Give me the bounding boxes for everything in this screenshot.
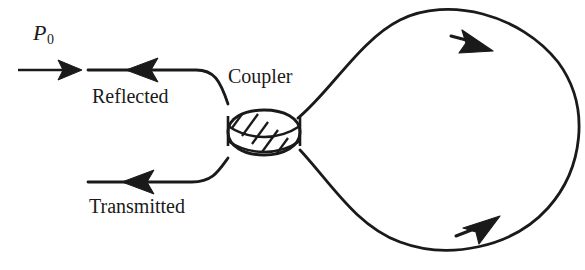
input-power-subscript: 0 (47, 32, 54, 47)
transmitted-fiber-line (88, 158, 228, 182)
input-power-symbol: P (33, 20, 46, 45)
loop-fiber-path (298, 9, 579, 250)
loop-bottom-arrowhead (463, 216, 500, 244)
input-power-label: P0 (33, 22, 54, 47)
loop-clockwise-arrow-bottom (456, 216, 500, 244)
fiber-coupler-cylinder (202, 90, 308, 216)
fiber-ring-loop (298, 9, 579, 250)
transmitted-label: Transmitted (89, 196, 185, 216)
coupler-label: Coupler (228, 66, 292, 86)
loop-top-arrowhead (459, 30, 493, 53)
input-power-arrow (18, 60, 82, 80)
fiber-loop-coupler-diagram (0, 0, 585, 270)
reflected-label: Reflected (92, 86, 169, 106)
loop-clockwise-arrow-top (451, 30, 493, 53)
transmitted-port-arrow (88, 158, 228, 194)
figure-root: P0 Reflected Transmitted Coupler (0, 0, 585, 270)
